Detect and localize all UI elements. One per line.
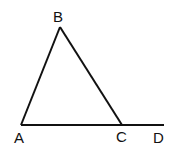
label-d: D — [153, 129, 164, 146]
label-a: A — [14, 129, 24, 146]
label-b: B — [53, 8, 63, 25]
triangle-diagram: B A C D — [0, 0, 173, 150]
label-c: C — [116, 128, 127, 145]
segment-ab — [21, 27, 60, 125]
segment-bc — [60, 27, 122, 125]
